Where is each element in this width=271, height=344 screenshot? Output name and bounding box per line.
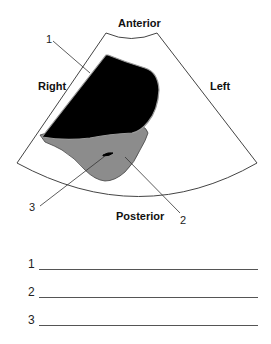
answer-row-2[interactable]: 2 [28,285,258,299]
callout-line-1 [53,41,90,73]
black-region [42,55,159,139]
answer-row-3[interactable]: 3 [28,313,258,327]
label-left: Left [210,80,230,92]
callout-number-2: 2 [180,214,186,226]
answer-line-2[interactable] [39,297,258,298]
answer-number-3: 3 [28,313,35,327]
ultrasound-sector-diagram [0,0,271,230]
label-anterior: Anterior [118,17,161,29]
answer-line-3[interactable] [39,325,258,326]
label-right: Right [38,80,66,92]
answer-line-1[interactable] [39,269,258,270]
label-posterior: Posterior [116,210,164,222]
callout-number-3: 3 [29,201,35,213]
callout-number-1: 1 [46,33,52,45]
answer-number-2: 2 [28,285,35,299]
answer-number-1: 1 [28,257,35,271]
answer-row-1[interactable]: 1 [28,257,258,271]
